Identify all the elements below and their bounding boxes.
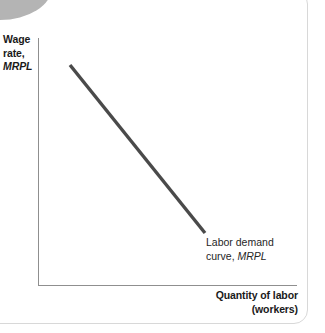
y-axis-label-line3: MRPL: [3, 60, 32, 72]
labor-demand-figure: Wage rate, MRPL Quantity of labor (worke…: [0, 0, 325, 333]
y-axis-line: [38, 38, 39, 286]
y-axis-label-line2: rate,: [3, 47, 25, 59]
curve-annotation-line2-prefix: curve,: [206, 250, 238, 262]
x-axis-label-line1: Quantity of labor: [216, 289, 298, 301]
y-axis-label: Wage rate, MRPL: [3, 33, 36, 74]
x-axis-label-line2: (workers): [252, 303, 298, 315]
y-axis-label-line1: Wage: [3, 33, 30, 45]
x-axis-label: Quantity of labor (workers): [160, 289, 298, 316]
curve-annotation-line1: Labor demand: [206, 236, 274, 248]
curve-annotation: Labor demand curve, MRPL: [206, 236, 318, 263]
figure-card-frame: [0, 0, 308, 324]
x-axis-line: [38, 285, 297, 286]
curve-annotation-line2-italic: MRPL: [238, 250, 267, 262]
